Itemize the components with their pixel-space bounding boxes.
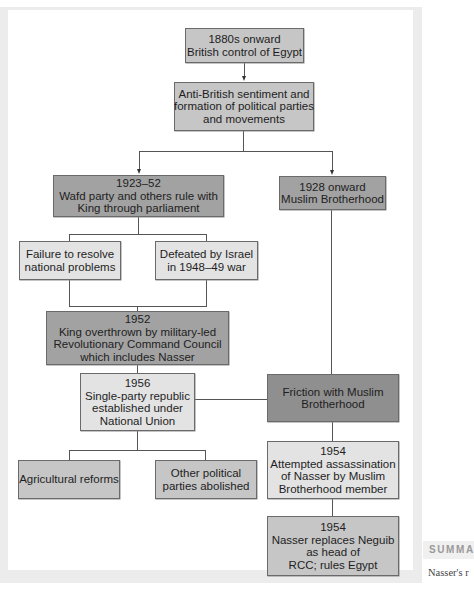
node-text: King overthrown by military-led [59, 326, 216, 339]
node-text: Revolutionary Command Council [53, 338, 221, 351]
node-text: established under [92, 402, 183, 415]
node-parties-abolished: Other political parties abolished [155, 460, 257, 499]
summary-text: Nasser's r [428, 567, 469, 578]
connector [332, 422, 333, 441]
connector [138, 217, 139, 234]
node-british-control: 1880s onward British control of Egypt [185, 28, 304, 63]
node-text: Defeated by Israel [160, 248, 253, 261]
node-text: Agricultural reforms [19, 473, 119, 486]
connector [69, 280, 70, 307]
node-text: 1928 onward [299, 181, 366, 194]
node-text: Failure to resolve [26, 248, 114, 261]
node-nasser-replaces: 1954 Nasser replaces Neguib as head of R… [267, 516, 399, 576]
node-anti-british: Anti-British sentiment and formation of … [174, 82, 314, 131]
node-text: as head of [306, 546, 360, 559]
node-text: Muslim Brotherhood [281, 193, 384, 206]
connector [332, 151, 333, 171]
node-agricultural: Agricultural reforms [18, 460, 120, 499]
node-text: parties abolished [163, 480, 250, 493]
node-text: Single-party republic [85, 390, 190, 403]
node-text: of Nasser by Muslim [281, 470, 385, 483]
connector [69, 234, 70, 241]
arrow-icon [137, 169, 141, 174]
connector [69, 450, 206, 451]
node-text: formation of political parties [174, 100, 314, 113]
connector [139, 151, 333, 152]
arrow-icon [242, 76, 246, 81]
node-king-overthrown: 1952 King overthrown by military-led Rev… [46, 311, 229, 365]
connector [332, 498, 333, 516]
node-text: Attempted assassination [270, 458, 395, 471]
connector [206, 234, 207, 241]
node-text: 1880s onward [208, 33, 280, 46]
connector [243, 131, 244, 151]
node-text: National Union [100, 415, 175, 428]
node-friction: Friction with Muslim Brotherhood [267, 374, 399, 422]
node-text: Nasser replaces Neguib [272, 534, 395, 547]
connector [194, 399, 267, 400]
node-defeated-israel: Defeated by Israel in 1948–49 war [155, 241, 258, 280]
connector [331, 209, 332, 374]
node-text: Brotherhood member [279, 483, 388, 496]
node-text: in 1948–49 war [167, 261, 246, 274]
node-text: Friction with Muslim [283, 386, 384, 399]
node-text: which includes Nasser [80, 351, 194, 364]
node-text: British control of Egypt [187, 46, 302, 59]
node-text: Wafd party and others rule with [59, 190, 218, 203]
connector [244, 63, 245, 77]
node-failure-problems: Failure to resolve national problems [19, 241, 121, 280]
node-text: and movements [203, 113, 285, 126]
node-text: 1954 [320, 445, 346, 458]
arrow-icon [330, 170, 334, 175]
connector [69, 450, 70, 460]
node-text: 1954 [320, 521, 346, 534]
node-single-party: 1956 Single-party republic established u… [80, 373, 195, 431]
node-text: Brotherhood [301, 398, 364, 411]
node-text: Other political [171, 467, 241, 480]
node-text: national problems [25, 261, 116, 274]
node-text: RCC; rules Egypt [289, 559, 378, 572]
node-text: 1956 [125, 377, 151, 390]
connector [205, 450, 206, 460]
summary-heading: SUMMA [423, 541, 474, 559]
connector [69, 234, 207, 235]
connector [139, 151, 140, 170]
node-text: King through parliament [77, 202, 199, 215]
node-text: Anti-British sentiment and [178, 88, 309, 101]
connector [206, 280, 207, 307]
connector [69, 306, 207, 307]
node-assassination: 1954 Attempted assassination of Nasser b… [267, 441, 399, 499]
node-text: 1952 [125, 313, 151, 326]
node-muslim-brotherhood: 1928 onward Muslim Brotherhood [279, 176, 386, 210]
connector [137, 364, 138, 373]
node-text: 1923–52 [116, 177, 161, 190]
node-wafd-rule: 1923–52 Wafd party and others rule with … [53, 175, 224, 217]
